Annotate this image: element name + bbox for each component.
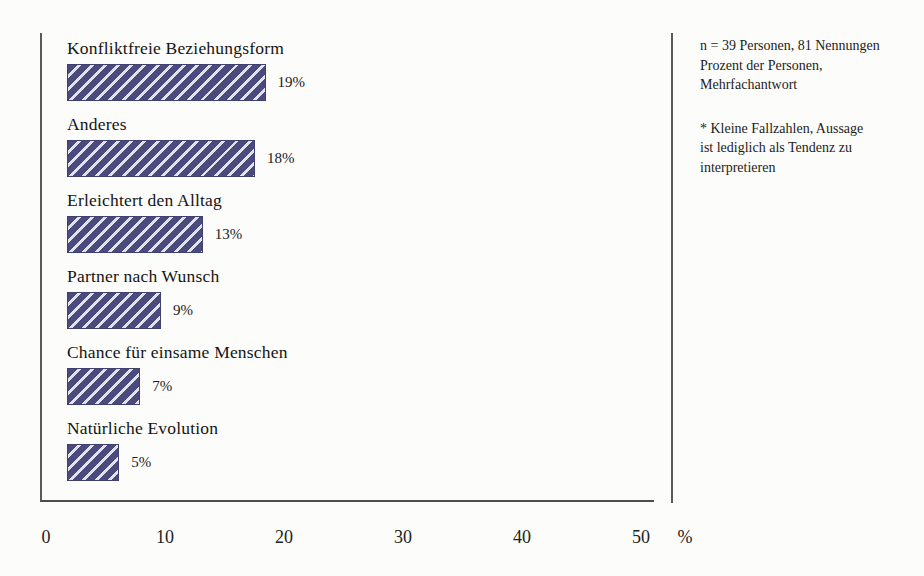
category-label: Partner nach Wunsch	[67, 264, 654, 288]
x-tick-label: 20	[275, 527, 293, 548]
category-label: Chance für einsame Menschen	[67, 340, 654, 364]
category-label: Anderes	[67, 112, 654, 136]
bar-rows-container: Konfliktfreie Beziehungsform19%Anderes18…	[67, 36, 654, 481]
category-label: Konfliktfreie Beziehungsform	[67, 36, 654, 60]
bar	[67, 216, 203, 253]
x-axis-unit-label: %	[678, 527, 693, 548]
bar	[67, 368, 140, 405]
bar	[67, 64, 266, 101]
footnote: * Kleine Fallzahlen, Aussage ist ledigli…	[700, 119, 918, 178]
footnote-line: interpretieren	[700, 158, 918, 178]
footnote-line: ist lediglich als Tendenz zu	[700, 138, 918, 158]
bar-line: 9%	[67, 292, 654, 329]
x-tick-label: 30	[394, 527, 412, 548]
x-tick-label: 0	[42, 527, 51, 548]
value-label: 19%	[278, 74, 306, 91]
value-label: 18%	[267, 150, 295, 167]
x-tick-label: 50	[632, 527, 650, 548]
value-label: 5%	[131, 454, 151, 471]
value-label: 9%	[173, 302, 193, 319]
bar-row: Partner nach Wunsch9%	[67, 264, 654, 329]
category-label: Erleichtert den Alltag	[67, 188, 654, 212]
bar-line: 7%	[67, 368, 654, 405]
bar-line: 19%	[67, 64, 654, 101]
notes-panel: n = 39 Personen, 81 Nennungen Prozent de…	[700, 36, 918, 201]
bar-line: 13%	[67, 216, 654, 253]
bar-row: Natürliche Evolution5%	[67, 416, 654, 481]
value-label: 7%	[152, 378, 172, 395]
bar-line: 18%	[67, 140, 654, 177]
x-axis: 01020304050%	[0, 527, 924, 553]
value-label: 13%	[215, 226, 243, 243]
category-label: Natürliche Evolution	[67, 416, 654, 440]
x-tick-label: 10	[156, 527, 174, 548]
sample-note-line: Prozent der Personen,	[700, 56, 918, 76]
bar	[67, 292, 161, 329]
bar-row: Chance für einsame Menschen7%	[67, 340, 654, 405]
plot-area: Konfliktfreie Beziehungsform19%Anderes18…	[40, 33, 654, 502]
footnote-line: * Kleine Fallzahlen, Aussage	[700, 119, 918, 139]
bar-line: 5%	[67, 444, 654, 481]
bar-row: Erleichtert den Alltag13%	[67, 188, 654, 253]
bar	[67, 140, 255, 177]
bar-row: Anderes18%	[67, 112, 654, 177]
divider-line	[671, 33, 673, 503]
sample-note: n = 39 Personen, 81 Nennungen Prozent de…	[700, 36, 918, 95]
bar	[67, 444, 119, 481]
bar-row: Konfliktfreie Beziehungsform19%	[67, 36, 654, 101]
sample-note-line: n = 39 Personen, 81 Nennungen	[700, 36, 918, 56]
sample-note-line: Mehrfachantwort	[700, 75, 918, 95]
page: Konfliktfreie Beziehungsform19%Anderes18…	[0, 0, 924, 576]
x-tick-label: 40	[513, 527, 531, 548]
